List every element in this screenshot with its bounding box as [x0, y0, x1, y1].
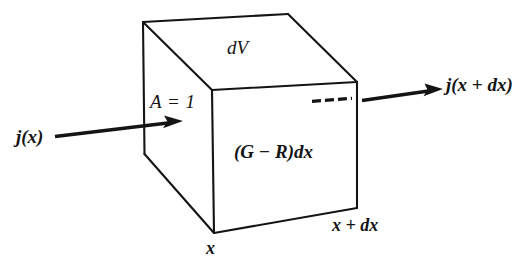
label-position-right: x + dx	[332, 216, 378, 234]
box-edge-left-back-vertical	[143, 22, 145, 154]
label-cross-section-area: A = 1	[150, 92, 196, 111]
box-edge-front-left-vertical	[212, 90, 214, 233]
label-current-out: j(x + dx)	[446, 75, 513, 94]
current-in-arrow	[55, 116, 183, 137]
current-out-arrow	[362, 84, 443, 101]
box-edge-top-back	[143, 14, 288, 22]
label-generation-recombination: (G − R)dx	[234, 142, 313, 161]
label-position-left: x	[206, 239, 215, 257]
dashed-flux-segment	[312, 98, 352, 101]
box-edge-diagonal-top-left	[143, 22, 212, 90]
box-edge-diagonal-top-right	[288, 14, 357, 82]
figure-container: dV A = 1 (G − R)dx j(x) j(x + dx) x x + …	[0, 0, 532, 263]
current-in-arrow-shaft	[55, 123, 172, 137]
box-edge-diagonal-bottom-left	[145, 154, 215, 233]
box-edge-front-top	[212, 82, 357, 90]
label-volume-element: dV	[227, 38, 248, 57]
box-diagram-svg	[0, 0, 532, 263]
label-current-in: j(x)	[16, 127, 43, 146]
current-out-arrow-shaft	[362, 91, 432, 101]
